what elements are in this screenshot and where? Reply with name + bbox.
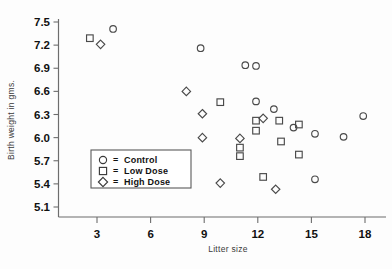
x-axis-title: Litter size bbox=[208, 244, 248, 254]
y-axis-tick-labels: 5.15.45.76.06.36.66.97.27.5 bbox=[34, 16, 51, 213]
data-point-diamond bbox=[271, 185, 279, 193]
y-tick-label: 6.3 bbox=[34, 109, 50, 121]
y-tick-label: 5.1 bbox=[34, 201, 51, 213]
y-tick-label: 5.4 bbox=[34, 178, 51, 190]
x-axis-tick-labels: 369121518 bbox=[94, 228, 372, 240]
data-point-square bbox=[217, 99, 224, 106]
data-point-circle bbox=[253, 63, 260, 70]
x-tick-label: 12 bbox=[251, 228, 264, 240]
y-tick-label: 6.9 bbox=[34, 62, 50, 74]
y-tick-label: 6.6 bbox=[34, 85, 50, 97]
data-point-circle bbox=[197, 45, 204, 52]
data-point-square bbox=[237, 153, 244, 160]
data-point-circle bbox=[312, 130, 319, 137]
data-point-square bbox=[237, 144, 244, 151]
data-point-diamond bbox=[259, 114, 267, 122]
data-point-circle bbox=[340, 134, 347, 141]
legend-equals: = bbox=[113, 177, 118, 187]
y-tick-label: 5.7 bbox=[34, 155, 50, 167]
data-point-diamond bbox=[96, 40, 104, 48]
legend-label-control: Control bbox=[124, 155, 157, 165]
y-tick-label: 7.2 bbox=[34, 39, 50, 51]
data-point-square bbox=[253, 127, 260, 134]
y-axis-ticks bbox=[54, 22, 59, 207]
data-point-diamond bbox=[198, 110, 206, 118]
data-point-diamond bbox=[198, 133, 206, 141]
x-axis-ticks bbox=[97, 217, 365, 223]
data-point-circle bbox=[242, 62, 249, 69]
legend-equals: = bbox=[113, 155, 118, 165]
data-point-square bbox=[260, 174, 267, 181]
data-point-circle bbox=[312, 176, 319, 183]
data-point-circle bbox=[253, 98, 260, 105]
legend: =Control=Low Dose=High Dose bbox=[91, 150, 191, 188]
legend-label-low-dose: Low Dose bbox=[124, 166, 168, 176]
data-point-circle bbox=[110, 26, 117, 33]
x-tick-label: 9 bbox=[201, 228, 207, 240]
x-tick-label: 15 bbox=[305, 228, 318, 240]
data-point-square bbox=[296, 151, 303, 158]
data-point-circle bbox=[271, 106, 278, 113]
legend-label-high-dose: High Dose bbox=[124, 177, 170, 187]
data-point-diamond bbox=[236, 134, 244, 142]
data-point-square bbox=[278, 138, 285, 145]
scatter-plot-figure: 5.15.45.76.06.36.66.97.27.5 369121518 Bi… bbox=[0, 0, 392, 269]
data-point-square bbox=[87, 35, 94, 42]
data-point-square bbox=[276, 117, 283, 124]
y-tick-label: 7.5 bbox=[34, 16, 51, 28]
x-tick-label: 6 bbox=[147, 228, 153, 240]
data-point-diamond bbox=[216, 179, 224, 187]
x-tick-label: 3 bbox=[94, 228, 100, 240]
data-point-circle bbox=[360, 113, 367, 120]
y-axis-title: Birth weight in gms. bbox=[6, 80, 16, 160]
legend-equals: = bbox=[113, 166, 118, 176]
data-point-diamond bbox=[182, 87, 190, 95]
x-tick-label: 18 bbox=[359, 228, 372, 240]
plot-canvas: 5.15.45.76.06.36.66.97.27.5 369121518 Bi… bbox=[0, 0, 392, 269]
y-tick-label: 6.0 bbox=[34, 132, 50, 144]
